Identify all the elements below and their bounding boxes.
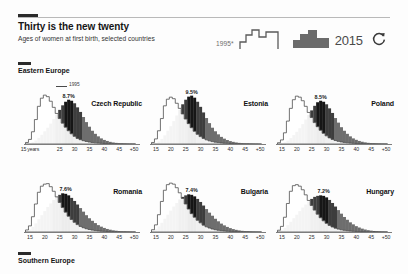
bar-2015 <box>91 131 94 144</box>
header-divider <box>18 17 390 18</box>
bar-2015 <box>343 217 346 232</box>
bar-2015 <box>349 222 352 232</box>
axis-tick-label: 45 <box>368 146 374 152</box>
plot-area <box>148 86 270 144</box>
axis-tick-label: 40 <box>353 234 359 240</box>
axis-tick-label: 20 <box>294 146 300 152</box>
axis-tick-label: +50 <box>130 146 139 152</box>
panel-peak-value: 8.5% <box>315 94 327 100</box>
x-axis-ticks: 15202530354045+50 <box>274 146 396 156</box>
axis-tick-label: 35 <box>339 234 345 240</box>
plot-area <box>22 174 144 232</box>
panel-country-label: Romania <box>113 188 142 195</box>
axis-tick-label: 15 <box>153 234 159 240</box>
legend-label-2015: 2015 <box>335 33 363 48</box>
axis-tick-label: +50 <box>382 146 391 152</box>
bar-2015 <box>343 131 346 144</box>
axis-tick-label: 15 <box>279 146 285 152</box>
axis-tick-label: 30 <box>72 234 78 240</box>
axis-tick-label: +50 <box>382 234 391 240</box>
panel-peak-value: 7.2% <box>318 188 330 194</box>
panel-country-label: Hungary <box>366 188 394 195</box>
axis-tick-label: 45 <box>242 146 248 152</box>
axis-tick-label: 30 <box>198 234 204 240</box>
axis-tick-label: 30 <box>324 234 330 240</box>
axis-tick-label: 35 <box>213 146 219 152</box>
axis-tick-label: 20 <box>42 234 48 240</box>
plot-area <box>148 174 270 232</box>
axis-tick-label: 45 <box>368 234 374 240</box>
panel-country-label: Bulgaria <box>241 188 268 195</box>
chart-legend: 1995* 2015 <box>216 27 386 51</box>
chart-panel-czech-republic: 15 years2530354045+50Czech Republic8.7%1… <box>22 78 144 164</box>
bar-2015 <box>82 117 85 144</box>
page-title: Thirty is the new twenty <box>18 21 129 32</box>
histogram-outline-icon <box>239 28 287 50</box>
x-axis-line <box>276 144 392 145</box>
axis-tick-label: 20 <box>294 234 300 240</box>
x-axis-ticks: 15202530354045+50 <box>148 234 270 244</box>
chart-panel-hungary: 15202530354045+50Hungary7.2% <box>274 166 396 252</box>
bar-2015 <box>346 220 349 232</box>
x-axis-line <box>24 144 140 145</box>
panel-peak-value: 7.4% <box>186 187 198 193</box>
region-label: Southern Europe <box>18 257 75 264</box>
axis-tick-label: 20 <box>168 234 174 240</box>
bar-2015 <box>79 112 82 144</box>
x-axis-line <box>276 232 392 233</box>
axis-tick-label: 45 <box>116 146 122 152</box>
axis-tick-label: 40 <box>227 234 233 240</box>
axis-tick-label: 25 <box>57 146 63 152</box>
panel-peak-value: 7.6% <box>60 186 72 192</box>
inline-legend-label-1995: 1995 <box>69 82 80 87</box>
axis-tick-label: 35 <box>87 234 93 240</box>
axis-tick-label: 40 <box>353 146 359 152</box>
panel-country-label: Czech Republic <box>91 100 142 107</box>
x-axis-line <box>150 232 266 233</box>
bar-2015 <box>88 127 91 144</box>
axis-tick-label: 25 <box>183 234 189 240</box>
inline-legend-leader-line <box>56 86 67 87</box>
axis-tick-label: 30 <box>198 146 204 152</box>
bar-2015 <box>340 127 343 144</box>
axis-tick-label: 25 <box>309 234 315 240</box>
axis-tick-label: 30 <box>72 146 78 152</box>
bar-2015 <box>340 214 343 232</box>
axis-tick-label: 15 <box>27 234 33 240</box>
x-axis-line <box>150 144 266 145</box>
panel-country-label: Poland <box>371 100 394 107</box>
region-header-eastern-europe: Eastern Europe <box>18 62 70 74</box>
axis-tick-label: 40 <box>101 234 107 240</box>
histogram-filled-icon <box>292 29 330 49</box>
axis-tick-label: 25 <box>309 146 315 152</box>
axis-tick-label: 20 <box>168 146 174 152</box>
axis-tick-label: 15 <box>153 146 159 152</box>
chart-panel-estonia: 15202530354045+50Estonia9.5% <box>148 78 270 164</box>
axis-tick-label: +50 <box>256 146 265 152</box>
axis-tick-label: 15 years <box>21 146 39 152</box>
bar-2015 <box>85 122 88 144</box>
panel-peak-value: 9.5% <box>186 89 198 95</box>
axis-tick-label: 35 <box>339 146 345 152</box>
axis-tick-label: 30 <box>324 146 330 152</box>
axis-tick-label: 40 <box>101 146 107 152</box>
legend-label-1995: 1995* <box>216 40 234 47</box>
x-axis-line <box>24 232 140 233</box>
axis-tick-label: 45 <box>242 234 248 240</box>
bar-2015 <box>334 118 337 144</box>
panel-peak-value: 8.7% <box>63 93 75 99</box>
chart-panel-romania: 15202530354045+50Romania7.6% <box>22 166 144 252</box>
refresh-circular-arrow-icon[interactable] <box>372 32 386 47</box>
axis-tick-label: 25 <box>183 146 189 152</box>
chart-panel-poland: 15202530354045+50Poland8.5% <box>274 78 396 164</box>
plot-area <box>274 86 396 144</box>
plot-area <box>22 86 144 144</box>
region-rule-mark <box>18 62 31 65</box>
x-axis-ticks: 15202530354045+50 <box>22 234 144 244</box>
chart-panel-bulgaria: 15202530354045+50Bulgaria7.4% <box>148 166 270 252</box>
small-multiples-grid: 15 years2530354045+50Czech Republic8.7%1… <box>22 78 400 254</box>
plot-area <box>274 174 396 232</box>
x-axis-ticks: 15202530354045+50 <box>274 234 396 244</box>
axis-tick-label: +50 <box>130 234 139 240</box>
page-subtitle: Ages of women at first birth, selected c… <box>18 35 155 42</box>
